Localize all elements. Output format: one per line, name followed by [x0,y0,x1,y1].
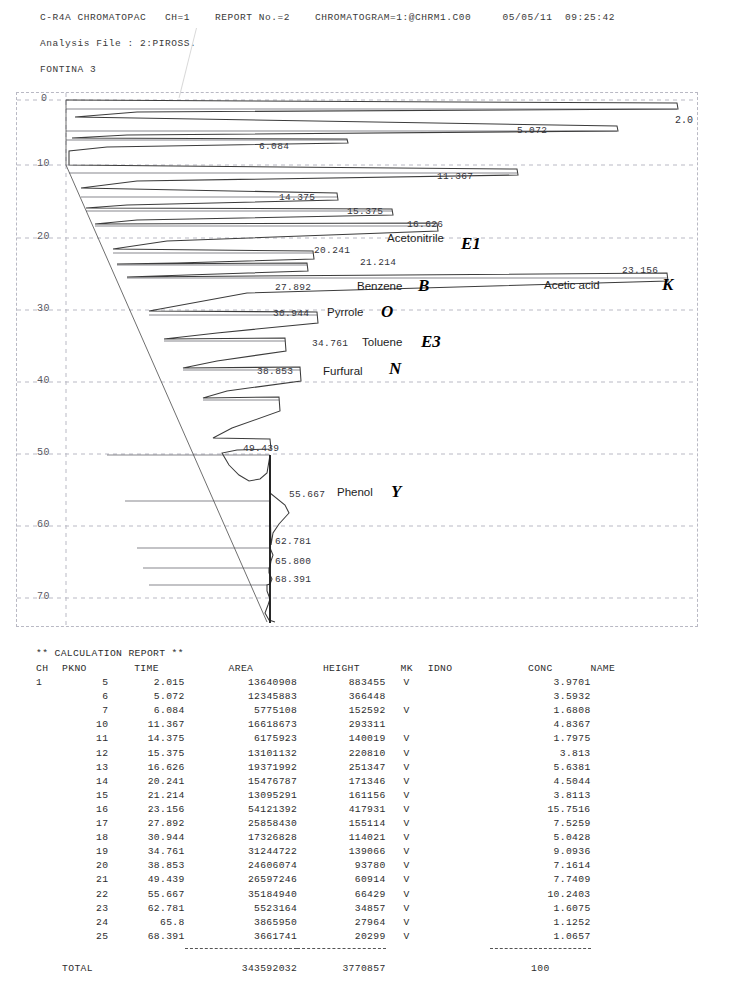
table-rule-row [36,944,671,958]
cell-mk: V [386,789,428,803]
table-row: 2255.6673518494066429V10.2403 [36,888,671,902]
cell-height: 155114 [297,817,385,831]
table-row: 76.0845775108152592V1.6808 [36,704,671,718]
cell-mk: V [386,859,428,873]
calculation-report: ** CALCULATION REPORT ** CH PKNO TIME AR… [36,648,696,976]
cell-area: 5775108 [185,704,298,718]
cell-conc: 5.6381 [490,761,590,775]
cell-conc: 1.1252 [490,916,590,930]
peak-label-14-375: 14.375 [279,192,315,203]
cell-idno [428,817,490,831]
total-label: TOTAL [62,958,108,976]
cell-name [591,803,671,817]
cell-ch [36,690,62,704]
table-row: 1623.15654121392417931V15.7516 [36,803,671,817]
column-header-conc: CONC [490,662,590,676]
cell-pkno: 15 [62,789,108,803]
ytick-label-20: 20 [37,231,50,242]
cell-ch [36,803,62,817]
column-header-idno: IDNO [428,662,490,676]
cell-height: 883455 [297,676,385,690]
cell-conc: 7.1614 [490,859,590,873]
cell-area: 19371992 [185,761,298,775]
table-row: 1316.62619371992251347V5.6381 [36,761,671,775]
cell-height: 114021 [297,831,385,845]
cell-area: 12345883 [185,690,298,704]
cell-mk: V [386,845,428,859]
compound-code-acetonitrile: E1 [461,234,481,254]
peak-label-65-800: 65.800 [275,556,311,567]
cell-conc: 1.0657 [490,930,590,944]
cell-pkno: 17 [62,817,108,831]
cell-mk: V [386,902,428,916]
cell-height: 60914 [297,873,385,887]
cell-mk: V [386,732,428,746]
table-row: 2149.4392659724660914V7.7409 [36,873,671,887]
cell-height: 93780 [297,859,385,873]
cell-pkno: 14 [62,775,108,789]
cell-time: 62.781 [108,902,184,916]
peak-label-21-214: 21.214 [360,257,396,268]
table-row: 152.01513640908883455V3.9701 [36,676,671,690]
instrument-header-line: C-R4A CHROMATOPAC CH=1 REPORT No.=2 CHRO… [40,12,615,23]
ytick-label-40: 40 [37,375,50,386]
compound-name-furfural: Furfural [323,365,363,377]
cell-pkno: 7 [62,704,108,718]
cell-area: 13101132 [185,747,298,761]
table-row: 1011.367166186732933114.8367 [36,718,671,732]
cell-name [591,916,671,930]
cell-name [591,888,671,902]
cell-area: 54121392 [185,803,298,817]
gridlines [17,100,697,598]
cell-conc: 1.6808 [490,704,590,718]
cell-time: 49.439 [108,873,184,887]
cell-ch [36,704,62,718]
compound-name-phenol: Phenol [337,486,373,498]
cell-idno [428,902,490,916]
peak-label-30-944: 30.944 [273,308,309,319]
cell-pkno: 20 [62,859,108,873]
cell-time: 6.084 [108,704,184,718]
cell-mk: V [386,888,428,902]
peak-label-49-439: 49.439 [243,443,279,454]
compound-name-acetic-acid: Acetic acid [544,279,600,291]
cell-height: 139066 [297,845,385,859]
peak-label-16-626: 16.626 [407,219,443,230]
cell-area: 3661741 [185,930,298,944]
cell-idno [428,888,490,902]
cell-area: 5523164 [185,902,298,916]
cell-area: 3865950 [185,916,298,930]
cell-conc: 3.8113 [490,789,590,803]
cell-pkno: 24 [62,916,108,930]
cell-ch [36,761,62,775]
cell-conc: 3.813 [490,747,590,761]
column-header-name: NAME [591,662,671,676]
cell-name [591,747,671,761]
table-row: 1114.3756175923140019V1.7975 [36,732,671,746]
cell-area: 13640908 [185,676,298,690]
cell-name [591,761,671,775]
cell-mk: V [386,916,428,930]
cell-mk [386,718,428,732]
cell-ch [36,902,62,916]
cell-height: 417931 [297,803,385,817]
cell-mk: V [386,817,428,831]
ytick-label-0: 0 [41,93,48,104]
analysis-file-line: Analysis File : 2:PIROSS. [40,38,196,49]
cell-height: 27964 [297,916,385,930]
cell-area: 25858430 [185,817,298,831]
cell-conc: 3.9701 [490,676,590,690]
cell-ch [36,747,62,761]
table-row: 1420.24115476787171346V4.5044 [36,775,671,789]
ytick-label-70: 70 [37,591,50,602]
cell-idno [428,930,490,944]
cell-idno [428,704,490,718]
chromatogram-signal-trace [66,100,678,622]
ytick-label-50: 50 [37,447,50,458]
cell-idno [428,732,490,746]
peak-label-20-241: 20.241 [314,245,350,256]
cell-mk: V [386,803,428,817]
compound-name-pyrrole: Pyrrole [327,306,363,318]
cell-conc: 3.5932 [490,690,590,704]
compound-code-phenol: Y [391,482,401,502]
